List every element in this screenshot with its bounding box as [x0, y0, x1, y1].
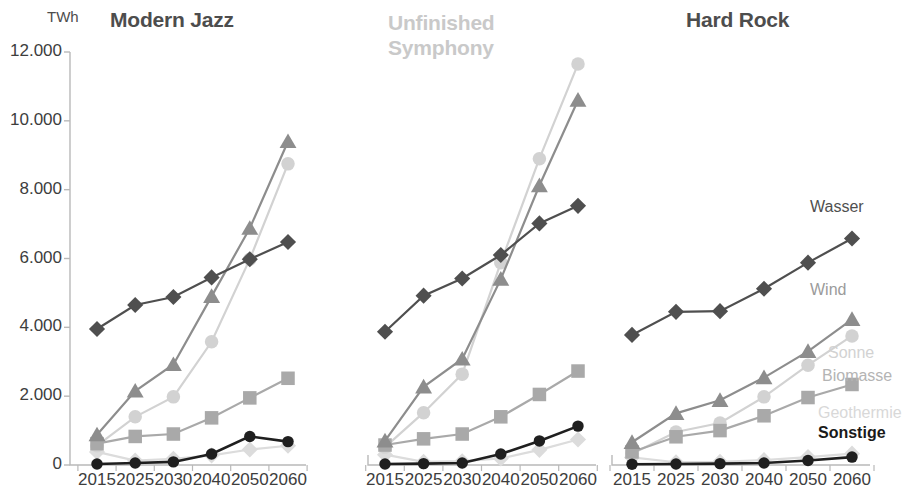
panel-title: Hard Rock — [686, 7, 789, 32]
y-tick-label: 8.000 — [0, 179, 62, 199]
x-tick-label: 2060 — [261, 470, 315, 490]
multi-panel-line-chart: TWh Modern Jazz Unfinished Symphony Hard… — [0, 0, 908, 504]
series-label-sonne: Sonne — [828, 344, 874, 362]
panel-title: Modern Jazz — [110, 7, 234, 32]
x-tick-label: 2060 — [551, 470, 605, 490]
panel-title: Unfinished Symphony — [388, 10, 495, 60]
y-tick-label: 10.000 — [0, 110, 62, 130]
y-tick-label: 6.000 — [0, 248, 62, 268]
chart-panel-unfinished-symphony: Unfinished Symphony — [304, 0, 604, 504]
y-tick-label: 0 — [0, 454, 62, 474]
series-label-wasser: Wasser — [810, 198, 864, 216]
series-label-wind: Wind — [810, 281, 846, 299]
y-tick-label: 2.000 — [0, 385, 62, 405]
series-label-sonstige: Sonstige — [818, 424, 886, 442]
y-tick-label: 4.000 — [0, 316, 62, 336]
series-label-biomasse: Biomasse — [822, 367, 892, 385]
series-label-geothermie: Geothermie — [818, 404, 902, 422]
x-tick-label: 2060 — [825, 470, 879, 490]
y-tick-label: 12.000 — [0, 41, 62, 61]
